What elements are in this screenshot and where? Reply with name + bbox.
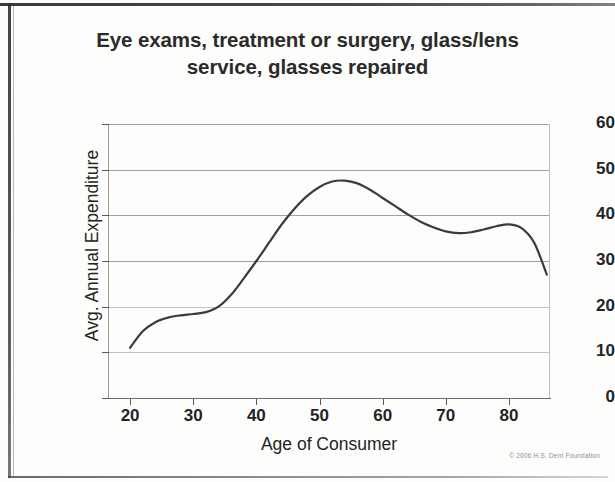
chart-screenshot: Eye exams, treatment or surgery, glass/l… [0, 0, 615, 482]
y-axis-title: Avg. Annual Expenditure [82, 96, 103, 396]
chart-area: 0102030405060 20304050607080 Avg. Annual… [0, 0, 615, 482]
copyright-credit: © 2006 H.S. Dent Foundation [460, 452, 600, 459]
expenditure-line-path [130, 180, 547, 347]
